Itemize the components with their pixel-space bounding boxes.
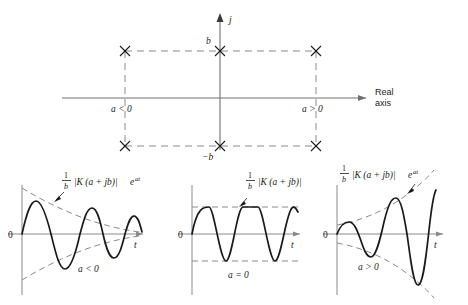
plot-growing-time-label: t [434, 240, 437, 250]
plot-decaying-magnitude-term: |K (a + jb)| [74, 177, 118, 188]
upper-imaginary-value-label: b [206, 36, 211, 46]
plot-decaying-time-label: t [134, 240, 137, 250]
plot-constant-frac-denominator: b [248, 182, 252, 191]
plot-growing-frac-denominator: b [342, 175, 346, 184]
plot-growing-magnitude-term: |K (a + jb)| [352, 170, 396, 181]
plot-decaying-origin-label: 0 [8, 230, 13, 240]
plot-decaying-exp-base: e [130, 177, 134, 187]
plot-decaying-frac-numerator: 1 [64, 171, 68, 180]
right-pole-real-label: a > 0 [302, 104, 323, 114]
lower-imaginary-value-label: −b [202, 152, 213, 162]
real-axis-label-line2: axis [375, 98, 392, 108]
figure-container: j b −b Real axis a < 0 a > 0 0 t a < 0 1 [0, 0, 468, 305]
plot-constant-frac-numerator: 1 [248, 171, 252, 180]
plot-growing-frac-numerator: 1 [342, 164, 346, 173]
figure-background [0, 0, 468, 305]
plot-constant-time-label: t [291, 240, 294, 250]
plot-growing-origin-label: 0 [323, 230, 328, 240]
plot-decaying-exp-superscript: at [135, 175, 140, 182]
plot-decaying-frac-denominator: b [64, 182, 68, 191]
left-pole-real-label: a < 0 [111, 104, 132, 114]
plot-decaying-case-label: a < 0 [78, 264, 99, 274]
plot-constant-case-label: a = 0 [228, 270, 249, 280]
plot-growing-exp-superscript: at [413, 168, 418, 175]
real-axis-label-line1: Real [375, 87, 394, 97]
plot-constant-magnitude-term: |K (a + jb)| [258, 177, 302, 188]
plot-growing-case-label: a > 0 [358, 262, 379, 272]
plot-growing-exp-base: e [408, 170, 412, 180]
plot-constant-origin-label: 0 [178, 230, 183, 240]
